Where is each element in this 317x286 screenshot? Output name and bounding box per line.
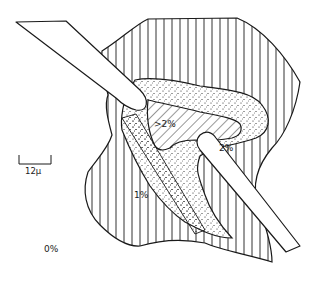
- zone-2-label: 2%: [219, 144, 233, 153]
- zone-gt2-label: >2%: [154, 120, 176, 129]
- zone-1-label: 1%: [134, 191, 148, 200]
- concentration-diagram: >2% 2% 1% 0% 12μ: [0, 0, 317, 286]
- zone-0-label: 0%: [44, 245, 58, 254]
- scale-bar-label: 12μ: [25, 167, 41, 176]
- scale-bar: [19, 155, 51, 164]
